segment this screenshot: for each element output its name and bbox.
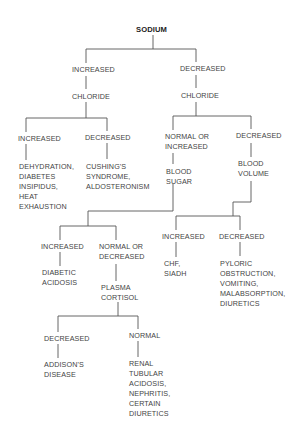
- node-sodium-increased: INCREASED: [72, 65, 115, 75]
- node-dx-cushings: CUSHING'S SYNDROME, ALDOSTERONISM: [86, 162, 150, 192]
- node-dx-diabetic-acidosis: DIABETIC ACIDOSIS: [42, 268, 77, 288]
- node-test-blood-sugar: BLOOD SUGAR: [166, 167, 192, 187]
- node-chloride-left: CHLORIDE: [72, 92, 110, 102]
- node-dx-renal-tubular-acidosis: RENAL TUBULAR ACIDOSIS, NEPHRITIS, CERTA…: [129, 359, 170, 419]
- node-dx-pyloric-obstruction: PYLORIC OBSTRUCTION, VOMITING, MALABSORP…: [220, 259, 285, 309]
- node-chloride-right: CHLORIDE: [181, 91, 219, 101]
- node-dx-dehydration: DEHYDRATION, DIABETES INSIPIDUS, HEAT EX…: [19, 162, 74, 212]
- node-chloride-right-decreased: DECREASED: [236, 131, 282, 141]
- node-dx-chf-siadh: CHF, SIADH: [164, 259, 186, 279]
- node-sodium-decreased: DECREASED: [180, 64, 226, 74]
- node-blood-sugar-increased: INCREASED: [41, 242, 84, 252]
- node-plasma-cortisol-normal: NORMAL: [129, 331, 160, 341]
- node-blood-sugar-normal-or-decreased: NORMAL OR DECREASED: [99, 242, 145, 262]
- node-chloride-left-decreased: DECREASED: [85, 133, 131, 143]
- node-chloride-left-increased: INCREASED: [18, 134, 61, 144]
- root-node-sodium: SODIUM: [136, 25, 167, 35]
- node-plasma-cortisol-decreased: DECREASED: [44, 334, 90, 344]
- node-chloride-right-normal-or-increased: NORMAL OR INCREASED: [165, 132, 209, 152]
- node-blood-volume-increased: INCREASED: [162, 232, 205, 242]
- node-blood-volume-decreased: DECREASED: [219, 232, 265, 242]
- node-test-plasma-cortisol: PLASMA CORTISOL: [101, 283, 138, 303]
- node-test-blood-volume: BLOOD VOLUME: [238, 159, 269, 179]
- node-dx-addisons-disease: ADDISON'S DISEASE: [44, 360, 84, 380]
